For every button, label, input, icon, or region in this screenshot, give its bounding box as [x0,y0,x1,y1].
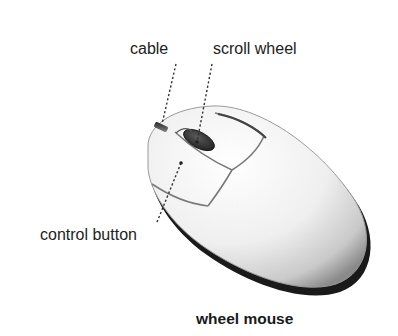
scroll-wheel-dot [195,140,199,144]
mouse-illustration [0,0,398,336]
mouse-body [148,106,371,296]
control-button-dot [179,161,183,165]
